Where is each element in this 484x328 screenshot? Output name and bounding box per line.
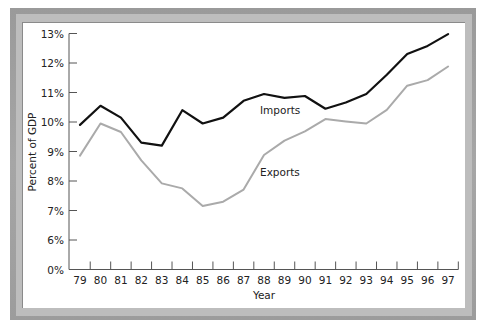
x-tick-label: 86 bbox=[216, 274, 230, 286]
x-tick-label: 88 bbox=[257, 274, 270, 286]
y-tick-label: 10% bbox=[41, 116, 64, 128]
line-chart: 0%6%7%8%9%10%11%12%13% 79808182838485868… bbox=[0, 0, 484, 328]
x-tick-label: 93 bbox=[360, 274, 373, 286]
x-tick-label: 79 bbox=[73, 274, 86, 286]
y-tick-label: 9% bbox=[47, 146, 64, 158]
x-tick-label: 81 bbox=[114, 274, 127, 286]
y-tick-label: 8% bbox=[47, 175, 64, 187]
x-tick-label: 95 bbox=[401, 274, 414, 286]
y-tick-label: 11% bbox=[41, 87, 64, 99]
x-tick-label: 83 bbox=[155, 274, 168, 286]
x-tick-label: 97 bbox=[441, 274, 454, 286]
x-tick-label: 84 bbox=[176, 274, 190, 286]
x-tick-label: 89 bbox=[278, 274, 291, 286]
y-axis-title: Percent of GDP bbox=[26, 113, 38, 192]
imports-line bbox=[80, 34, 448, 146]
x-tick-label: 91 bbox=[319, 274, 332, 286]
x-tick-label: 94 bbox=[380, 274, 394, 286]
x-axis-title: Year bbox=[252, 289, 276, 301]
y-tick-label: 7% bbox=[47, 205, 64, 217]
x-axis: 79808182838485868788899091929394959697 bbox=[69, 262, 458, 286]
y-tick-label: 12% bbox=[41, 57, 64, 69]
x-tick-label: 96 bbox=[421, 274, 435, 286]
y-tick-label: 0% bbox=[47, 264, 64, 276]
x-tick-label: 82 bbox=[135, 274, 148, 286]
x-tick-label: 90 bbox=[298, 274, 311, 286]
x-tick-label: 87 bbox=[237, 274, 250, 286]
x-tick-label: 92 bbox=[339, 274, 352, 286]
x-tick-label: 85 bbox=[196, 274, 209, 286]
exports-label: Exports bbox=[260, 166, 300, 178]
y-tick-label: 6% bbox=[47, 234, 64, 246]
imports-label: Imports bbox=[260, 104, 300, 116]
y-tick-label: 13% bbox=[41, 28, 64, 40]
y-axis: 0%6%7%8%9%10%11%12%13% bbox=[41, 28, 77, 276]
x-tick-label: 80 bbox=[94, 274, 107, 286]
series-lines bbox=[80, 34, 448, 206]
